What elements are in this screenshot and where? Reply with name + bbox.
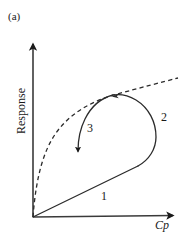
branch-3-curve: [78, 95, 113, 151]
x-axis-label: Cp: [155, 219, 169, 231]
panel-label: (a): [8, 11, 20, 22]
branch-1-label: 1: [101, 190, 107, 202]
branch-2-curve: [114, 95, 156, 166]
branch-1-curve: [33, 166, 138, 217]
x-axis: [33, 216, 173, 218]
branch-3-label: 3: [87, 122, 93, 134]
branch-2-label: 2: [161, 111, 167, 123]
y-axis-label: Response: [15, 76, 27, 146]
figure-panel: (a) Response Cp 1 2 3: [0, 0, 190, 241]
